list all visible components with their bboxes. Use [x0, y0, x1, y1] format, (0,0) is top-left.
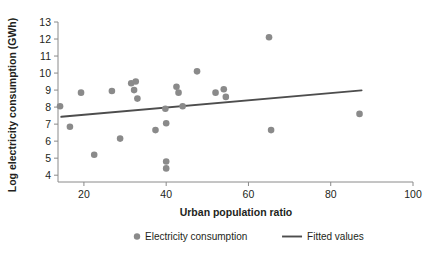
y-axis-tick-label: 13 — [39, 16, 51, 28]
x-axis-title: Urban population ratio — [180, 206, 293, 218]
data-point — [266, 34, 273, 41]
y-axis-tick-label: 12 — [39, 33, 51, 45]
y-axis-tick-label: 6 — [45, 135, 51, 147]
y-axis-tick-label: 11 — [40, 50, 51, 62]
y-axis-tick-label: 7 — [45, 118, 51, 130]
legend-label: Fitted values — [307, 231, 364, 242]
y-axis-tick-label: 10 — [39, 67, 51, 79]
data-point — [57, 103, 64, 110]
data-point — [212, 89, 219, 96]
data-point — [163, 165, 170, 172]
legend-dot-icon — [134, 233, 140, 239]
y-axis-tick-label: 8 — [45, 101, 51, 113]
x-axis-tick-label: 60 — [243, 188, 255, 200]
chart-canvas: 45678910111213 20406080100 Log electrici… — [0, 0, 442, 255]
y-axis-tick-label: 9 — [45, 84, 51, 96]
data-point — [163, 120, 170, 127]
data-point — [356, 111, 363, 118]
data-point — [132, 78, 139, 85]
x-axis-tick-label: 20 — [78, 188, 90, 200]
data-point — [134, 95, 141, 102]
data-point — [173, 83, 180, 90]
y-axis-title: Log electricity consumption (GWh) — [6, 18, 18, 192]
data-point — [162, 106, 169, 113]
data-point — [268, 127, 275, 134]
legend-label: Electricity consumption — [145, 231, 247, 242]
data-point — [194, 68, 201, 75]
x-axis-tick-label: 80 — [325, 188, 337, 200]
y-axis-tick-label: 5 — [45, 152, 51, 164]
y-axis-tick-label: 4 — [45, 169, 51, 181]
data-point — [220, 86, 227, 93]
data-point — [175, 89, 182, 96]
data-point — [67, 123, 74, 130]
data-point — [91, 151, 98, 158]
scatter-chart: 45678910111213 20406080100 Log electrici… — [0, 0, 442, 255]
data-point — [131, 87, 138, 94]
data-point — [152, 127, 159, 134]
x-axis-tick-label: 100 — [404, 188, 422, 200]
data-point — [109, 88, 116, 95]
x-axis-tick-label: 40 — [160, 188, 172, 200]
data-point — [78, 89, 85, 96]
data-point — [117, 135, 124, 142]
data-point — [223, 94, 230, 101]
data-point — [163, 158, 170, 165]
data-point — [179, 103, 186, 110]
